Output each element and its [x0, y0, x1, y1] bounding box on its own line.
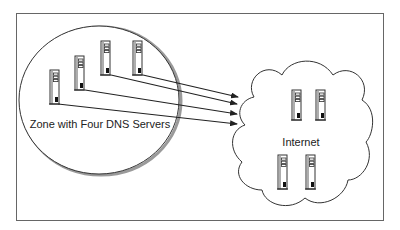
server-icon	[74, 56, 85, 90]
server-icon	[100, 41, 111, 75]
server-icon	[315, 90, 326, 120]
zone-label: Zone with Four DNS Servers	[30, 118, 171, 130]
server-icon	[291, 90, 302, 120]
diagram-canvas: Zone with Four DNS Servers Internet	[0, 0, 400, 230]
server-icon	[277, 155, 288, 189]
server-icon	[132, 41, 143, 75]
internet-label: Internet	[282, 136, 319, 148]
server-icon	[49, 70, 60, 104]
zone-circle	[19, 26, 181, 175]
server-icon	[305, 155, 316, 189]
